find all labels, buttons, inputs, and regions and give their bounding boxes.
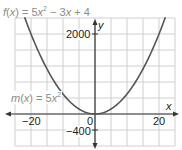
x-tick-neg20: −20 [22, 116, 41, 127]
x-axis-label: x [166, 101, 172, 112]
chart-canvas [0, 0, 182, 150]
f-equation-label: f(x) = 5x2 − 3x + 4 [3, 5, 90, 18]
origin-label: 0 [87, 116, 93, 127]
x-tick-20: 20 [153, 116, 165, 127]
y-axis-label: y [98, 20, 104, 31]
y-tick-2000: 2000 [66, 29, 90, 40]
y-tick-neg400: −400 [66, 126, 91, 137]
m-equation-label: m(x) = 5x2 [10, 91, 62, 104]
